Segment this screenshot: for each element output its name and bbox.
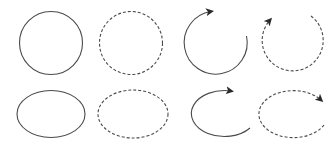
- dashed-ellipse-arc-with-arrow: [259, 91, 324, 138]
- solid-circle: [20, 12, 83, 75]
- row-ellipses: [17, 90, 324, 138]
- shapes-diagram: [0, 0, 333, 151]
- shapes-svg: [0, 0, 333, 151]
- solid-circle-arc-with-arrow: [184, 12, 247, 75]
- row-circles: [20, 12, 324, 75]
- dashed-ellipse: [98, 90, 168, 138]
- solid-ellipse: [17, 91, 85, 138]
- dashed-circle: [100, 12, 163, 75]
- solid-ellipse-arc-with-arrow: [191, 91, 250, 137]
- dashed-circle-arc-with-arrow: [262, 16, 323, 71]
